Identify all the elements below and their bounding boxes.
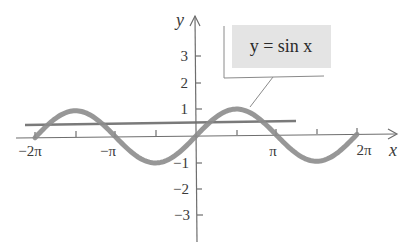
y-tick-label-3: 3 <box>181 48 189 64</box>
callout-label: y = sin x <box>250 36 313 56</box>
x-tick-label-neg-2pi: −2π <box>18 143 42 159</box>
horizontal-line <box>25 121 296 125</box>
callout: y = sin x <box>224 25 331 107</box>
x-tick-label-neg-pi: −π <box>100 143 116 159</box>
sine-chart: y = sin x −2π −π π 2π x <box>0 0 414 250</box>
y-tick-label-neg3: −3 <box>174 207 190 223</box>
y-tick-label-neg2: −2 <box>173 181 189 197</box>
x-tick-label-2pi: 2π <box>356 142 372 158</box>
x-axis-line <box>16 134 396 138</box>
x-axis: −2π −π π 2π x <box>16 128 397 160</box>
y-axis-line <box>195 16 197 242</box>
x-axis-label: x <box>388 140 397 160</box>
y-tick-label-1: 1 <box>181 101 189 117</box>
y-axis-label: y <box>174 10 184 30</box>
y-axis: 3 2 1 −1 −2 −3 y <box>173 10 203 242</box>
x-tick-label-pi: π <box>269 143 277 159</box>
callout-leader-line <box>250 77 273 107</box>
y-tick-label-2: 2 <box>181 75 189 91</box>
